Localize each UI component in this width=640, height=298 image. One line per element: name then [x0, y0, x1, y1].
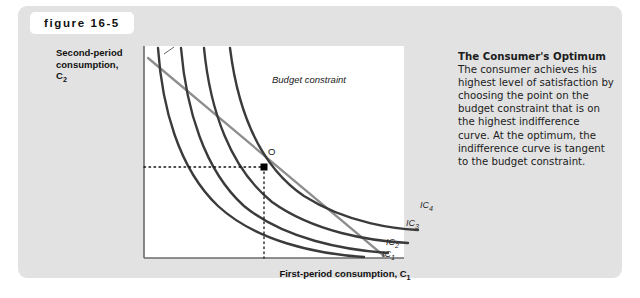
- ic4-subscript: 4: [429, 204, 433, 213]
- ic1-subscript: 1: [391, 253, 395, 262]
- y-axis-label-line1: Second-period: [56, 47, 123, 58]
- ic2-subscript: 2: [395, 241, 399, 250]
- x-axis-label-subscript: 1: [407, 273, 411, 282]
- y-axis-label-subscript: 2: [63, 75, 67, 84]
- figure-panel: figure 16-5 Second-period consumption, C…: [18, 6, 622, 278]
- ic2-text: IC: [386, 237, 395, 247]
- indifference-curve-4-label: IC4: [420, 200, 433, 213]
- optimum-point-label: O: [268, 146, 275, 157]
- y-axis-label: Second-period consumption, C2: [56, 47, 128, 85]
- ic4-text: IC: [420, 200, 429, 210]
- indifference-curve-3-label: IC3: [406, 218, 419, 231]
- optimum-point-marker: [261, 164, 268, 171]
- budget-constraint-label: Budget constraint: [272, 74, 346, 85]
- x-axis-label-text: First-period consumption, C: [279, 268, 406, 279]
- caption-body: The consumer achieves his highest level …: [458, 64, 614, 167]
- indifference-curve-1-label: IC1: [382, 249, 395, 262]
- figure-number-badge: figure 16-5: [30, 12, 134, 34]
- indifference-curve-2-label: IC2: [386, 237, 399, 250]
- figure-caption: The Consumer's Optimum The consumer achi…: [458, 50, 614, 168]
- caption-title: The Consumer's Optimum: [458, 51, 606, 62]
- ic3-subscript: 3: [415, 222, 419, 231]
- ic1-text: IC: [382, 249, 391, 259]
- ic3-text: IC: [406, 218, 415, 228]
- figure-number-label: figure 16-5: [30, 12, 134, 34]
- x-axis-label: First-period consumption, C1: [230, 268, 460, 282]
